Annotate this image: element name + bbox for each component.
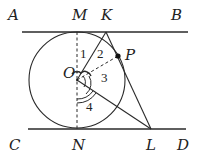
label-l: L	[145, 136, 156, 154]
angle-4-label: 4	[86, 99, 93, 114]
point-p	[115, 53, 120, 58]
label-m: M	[71, 6, 88, 24]
angle-1-label: 1	[80, 46, 87, 61]
angle-3-label: 3	[101, 70, 108, 85]
label-p: P	[124, 46, 136, 64]
label-c: C	[9, 136, 21, 154]
label-n: N	[71, 136, 86, 154]
label-o: O	[63, 64, 75, 82]
geometry-diagram: A M K B P O C N L D 1 2 3 4	[0, 0, 199, 160]
angle-2-label: 2	[97, 46, 104, 61]
angle-2-arc	[81, 71, 91, 76]
angle-4-arc	[77, 91, 93, 99]
label-d: D	[176, 136, 189, 154]
label-a: A	[6, 6, 19, 24]
point-o	[76, 79, 78, 81]
angle-3-arc-outer	[86, 76, 91, 94]
label-b: B	[170, 6, 182, 24]
label-k: K	[100, 6, 113, 24]
